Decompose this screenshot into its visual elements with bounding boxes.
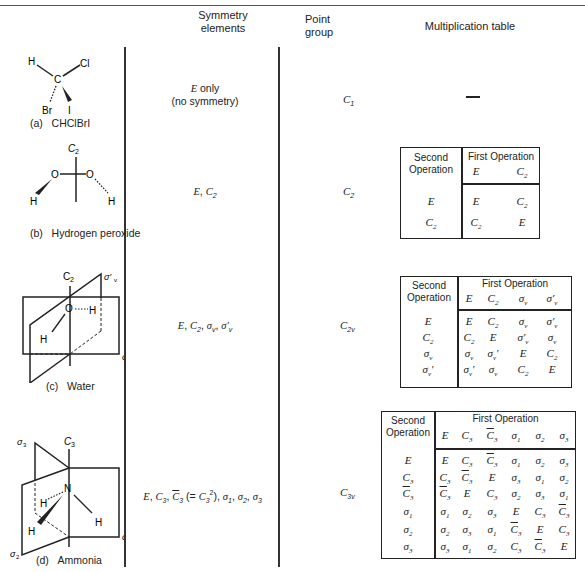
column-divider-right — [278, 47, 280, 567]
svg-text:N: N — [64, 483, 71, 494]
svg-text:H: H — [108, 196, 115, 207]
caption-a: (a) CHClBrI — [30, 117, 90, 129]
svg-text:σ: σ — [122, 352, 124, 362]
caption-letter: (b) — [30, 227, 43, 239]
caption-letter: (a) — [30, 117, 43, 129]
svg-text:v: v — [114, 277, 117, 283]
svg-text:3: 3 — [23, 442, 27, 448]
svg-text:C: C — [54, 74, 61, 85]
ammonia-molecule-diagram: σ3 C3 N H H H σ σ2 — [0, 435, 124, 565]
first-operation-label: First Operation — [459, 278, 571, 289]
header-point-line1: Point — [305, 13, 345, 26]
caption-d: (d) Ammonia — [36, 554, 102, 566]
svg-text:H: H — [28, 526, 35, 537]
point-group-b: C2 — [343, 185, 354, 199]
header-symmetry-elements: Symmetry elements — [183, 9, 263, 35]
symmetry-elements-c: E, C2, σv, σ′v — [150, 319, 260, 336]
first-operation-label: First Operation — [436, 413, 575, 424]
caption-b: (b) Hydrogen peroxide — [30, 227, 140, 239]
svg-text:Cl: Cl — [80, 58, 89, 69]
caption-text: CHClBrI — [52, 117, 91, 129]
point-group-a: C1 — [343, 93, 354, 107]
svg-text:O: O — [86, 169, 94, 180]
svg-text:O: O — [65, 303, 73, 314]
second-operation-label: Second Operation — [382, 415, 434, 439]
column-divider-left — [124, 47, 126, 567]
multiplication-table-c2: Second Operation First Operation EC2 E E… — [400, 147, 540, 239]
caption-letter: (c) — [46, 380, 58, 392]
svg-text:3: 3 — [71, 441, 75, 448]
caption-letter: (d) — [36, 554, 49, 566]
svg-text:2: 2 — [70, 276, 74, 283]
svg-text:2: 2 — [16, 554, 20, 560]
symmetry-elements-a: E only (no symmetry) — [150, 82, 260, 108]
symmetry-elements-b: E, C2 — [150, 185, 260, 202]
header-symmetry-line2: elements — [183, 22, 263, 35]
top-rule — [0, 5, 585, 6]
multiplication-table-c2v: Second Operation First Operation EC2σvσ′… — [400, 276, 572, 388]
svg-text:I: I — [68, 105, 71, 116]
header-point-line2: group — [305, 26, 345, 39]
svg-text:H: H — [40, 334, 47, 345]
caption-text: Ammonia — [58, 554, 102, 566]
svg-text:H: H — [28, 56, 35, 67]
svg-text:H: H — [40, 498, 47, 509]
svg-text:H: H — [95, 517, 102, 528]
symmetry-note: (no symmetry) — [150, 95, 260, 108]
second-operation-label: Second Operation — [401, 152, 461, 176]
symmetry-elements-d: E, C3, C3 (= C32), σ1, σ2, σ3 — [130, 486, 275, 507]
header-point-group: Point group — [305, 13, 345, 39]
svg-text:H: H — [89, 305, 96, 316]
point-group-c: C2v — [340, 319, 355, 333]
svg-text:2: 2 — [75, 148, 79, 155]
hydrogen-peroxide-diagram: C2 O O H H — [0, 135, 124, 235]
no-table-dash — [466, 96, 480, 98]
water-molecule-diagram: C2 σ′v O H H σv — [0, 268, 124, 383]
first-operation-label: First Operation — [463, 151, 539, 162]
second-operation-label: Second Operation — [401, 280, 457, 304]
caption-text: Water — [67, 380, 95, 392]
point-group-d: C3v — [340, 486, 355, 500]
caption-text: Hydrogen peroxide — [52, 227, 141, 239]
multiplication-table-c3v: Second Operation First Operation EC3C3σ1… — [381, 411, 576, 559]
caption-c: (c) Water — [46, 380, 95, 392]
svg-text:Br: Br — [42, 105, 53, 116]
svg-text:σ: σ — [122, 532, 124, 542]
svg-text:H: H — [30, 196, 37, 207]
svg-text:O: O — [51, 169, 59, 180]
header-multiplication-table: Multiplication table — [380, 20, 560, 33]
header-symmetry-line1: Symmetry — [183, 9, 263, 22]
svg-text:σ′: σ′ — [104, 272, 111, 282]
